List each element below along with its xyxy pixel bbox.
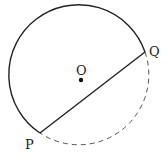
chord-pq [40,52,145,133]
center-label: O [76,63,87,78]
center-point [79,78,83,82]
point-q-label: Q [149,44,160,59]
circle-diagram: O Q P [0,0,168,159]
point-p-label: P [25,137,34,152]
minor-arc-dashed [40,52,149,145]
